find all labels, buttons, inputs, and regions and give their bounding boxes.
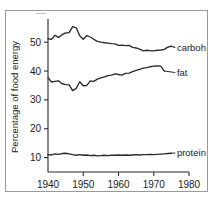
- x-tick-label-1940: 1940: [37, 179, 60, 190]
- y-tick-label-30: 30: [30, 94, 42, 105]
- line-chart: 102030405019401950196019701980Percentage…: [6, 11, 209, 193]
- series-line-carboh: [48, 27, 171, 51]
- series-label-fat: fat: [177, 67, 188, 78]
- axis-lines: [48, 19, 189, 172]
- figure-frame: 102030405019401950196019701980Percentage…: [5, 10, 208, 192]
- x-tick-label-1950: 1950: [72, 179, 95, 190]
- series-line-fat: [48, 66, 164, 91]
- x-tick-label-1960: 1960: [107, 179, 130, 190]
- y-axis-title: Percentage of food energy: [9, 41, 20, 153]
- series-line-protein: [48, 153, 171, 156]
- y-tick-label-40: 40: [30, 66, 42, 77]
- series-label-carboh: carboh: [177, 42, 206, 53]
- series-label-protein: protein: [177, 147, 206, 158]
- leader-line-carboh: [171, 46, 175, 47]
- leader-line-fat: [164, 71, 175, 72]
- x-tick-label-1970: 1970: [143, 179, 166, 190]
- x-tick-label-1980: 1980: [178, 179, 201, 190]
- y-tick-label-10: 10: [30, 152, 42, 163]
- y-tick-label-20: 20: [30, 123, 42, 134]
- y-tick-label-50: 50: [30, 37, 42, 48]
